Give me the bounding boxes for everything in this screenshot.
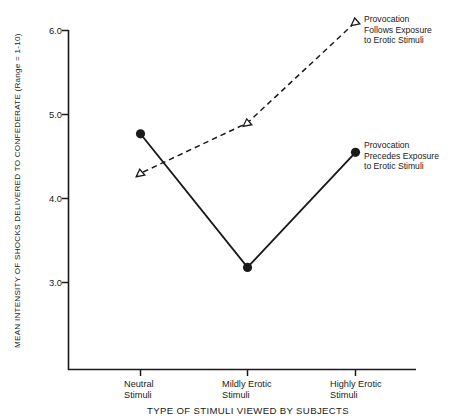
data-point-marker-filled-circle (351, 148, 360, 157)
data-point-marker-filled-circle (136, 129, 145, 138)
series-provocation-precedes (136, 129, 360, 272)
annotation-provocation-follows: Provocation Follows Exposure to Erotic S… (364, 14, 432, 46)
x-category-label-highly-erotic: Highly Erotic Stimuli (330, 379, 382, 400)
series-follows-line (143, 24, 353, 172)
data-point-marker-open-triangle (136, 169, 145, 177)
data-point-marker-filled-circle (243, 263, 252, 272)
plot-area (0, 0, 450, 420)
series-precedes-markers (136, 129, 360, 272)
series-follows-markers (136, 18, 360, 177)
data-point-marker-open-triangle (351, 18, 360, 26)
series-precedes-line (143, 136, 354, 267)
x-category-label-mildly-erotic: Mildly Erotic Stimuli (222, 379, 272, 400)
x-axis-title: TYPE OF STIMULI VIEWED BY SUBJECTS (147, 405, 349, 416)
series-provocation-follows (136, 18, 360, 177)
annotation-provocation-precedes: Provocation Precedes Exposure to Erotic … (364, 140, 439, 172)
figure-chart: MEAN INTENSITY OF SHOCKS DELIVERED TO CO… (0, 0, 450, 420)
x-category-label-neutral: Neutral Stimuli (124, 379, 154, 400)
